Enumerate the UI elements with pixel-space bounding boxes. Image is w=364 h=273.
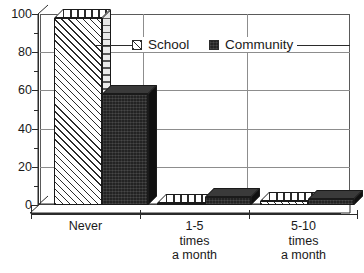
y-tick-minor-30 bbox=[34, 148, 38, 149]
bar-side-face bbox=[148, 85, 157, 205]
legend-item-community: Community bbox=[209, 37, 293, 52]
x-tick-3 bbox=[357, 210, 358, 219]
y-tick-minor-50 bbox=[34, 110, 38, 111]
y-tick-0 bbox=[32, 205, 38, 206]
y-axis: 100 80 60 40 20 0 bbox=[0, 0, 40, 219]
x-tick-1 bbox=[140, 210, 141, 219]
x-axis-label-5-10: 5-10 times a month bbox=[249, 219, 358, 263]
bar-school-never bbox=[54, 18, 102, 205]
y-tick-label-60: 60 bbox=[18, 84, 32, 96]
y-tick-60 bbox=[32, 90, 38, 91]
plot-area bbox=[40, 14, 350, 205]
bar-school-1-5 bbox=[157, 203, 205, 205]
bar-community-never bbox=[102, 94, 148, 205]
y-tick-label-80: 80 bbox=[18, 46, 32, 58]
bar-community-1-5 bbox=[205, 197, 251, 205]
y-tick-label-100: 100 bbox=[11, 8, 32, 20]
y-tick-40 bbox=[32, 129, 38, 130]
bar-chart: 100 80 60 40 20 0 Never 1-5 times a mont… bbox=[0, 0, 364, 273]
y-axis-spine bbox=[38, 14, 39, 205]
bar-front-face bbox=[102, 94, 148, 205]
y-tick-100 bbox=[32, 14, 38, 15]
legend-label-community: Community bbox=[225, 37, 293, 52]
y-tick-label-20: 20 bbox=[18, 161, 32, 173]
hatch-swatch-icon bbox=[132, 40, 142, 50]
legend-leader-left bbox=[96, 45, 132, 46]
y-tick-minor-90 bbox=[34, 33, 38, 34]
dark-swatch-icon bbox=[209, 40, 219, 50]
bar-front-face bbox=[260, 201, 308, 205]
bar-front-face bbox=[157, 203, 205, 205]
bar-front-face bbox=[54, 18, 102, 205]
y-tick-label-40: 40 bbox=[18, 123, 32, 135]
x-tick-2 bbox=[249, 210, 250, 219]
bar-community-5-10 bbox=[308, 199, 354, 205]
y-tick-minor-10 bbox=[34, 186, 38, 187]
bar-front-face bbox=[308, 199, 354, 205]
y-tick-20 bbox=[32, 167, 38, 168]
y-tick-minor-70 bbox=[34, 71, 38, 72]
x-axis-label-1-5: 1-5 times a month bbox=[140, 219, 249, 263]
legend-leader-right bbox=[297, 45, 350, 46]
legend-item-school: School bbox=[132, 37, 189, 52]
x-axis-label-never: Never bbox=[31, 219, 140, 234]
bar-school-5-10 bbox=[260, 201, 308, 205]
y-tick-80 bbox=[32, 52, 38, 53]
x-tick-0 bbox=[31, 210, 32, 219]
bar-front-face bbox=[205, 197, 251, 205]
x-axis-spine bbox=[31, 214, 358, 215]
legend-label-school: School bbox=[148, 37, 189, 52]
